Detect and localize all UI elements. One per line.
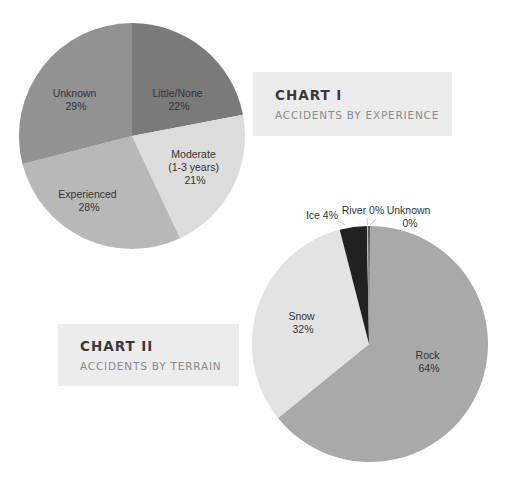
- label-river: River 0%: [342, 204, 385, 216]
- chart2-title-card: CHART II ACCIDENTS BY TERRAIN: [58, 324, 239, 386]
- pie-chart-terrain: Rock 64% Snow 32% Ice 4% River 0% Unknow…: [252, 204, 488, 462]
- label-ice: Ice 4%: [306, 209, 338, 221]
- chart1-title-card: CHART I ACCIDENTS BY EXPERIENCE: [253, 72, 452, 136]
- label-unknown-terrain: Unknown 0%: [387, 204, 434, 229]
- leader-line-river: [367, 218, 368, 225]
- leader-line-unknown: [370, 219, 376, 225]
- pie-chart-experience: Little/None 22% Moderate (1-3 years) 21%…: [19, 23, 245, 249]
- leader-line-ice: [338, 221, 345, 225]
- chart1-subtitle: ACCIDENTS BY EXPERIENCE: [275, 109, 452, 121]
- label-snow: Snow 32%: [288, 310, 317, 335]
- chart2-title: CHART II: [80, 338, 239, 354]
- label-rock: Rock 64%: [416, 349, 443, 374]
- chart2-subtitle: ACCIDENTS BY TERRAIN: [80, 360, 239, 372]
- chart1-title: CHART I: [275, 87, 452, 103]
